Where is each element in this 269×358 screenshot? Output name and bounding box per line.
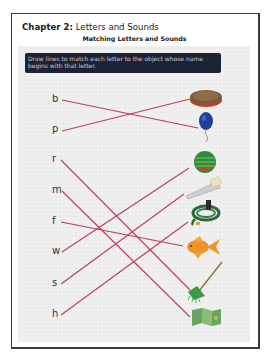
hose-icon [192,200,219,225]
balloon-icon [199,112,213,142]
pie-icon [190,90,222,107]
line-f-goldfish [61,222,183,246]
goldfish-icon [187,236,220,259]
rake-icon [188,262,222,303]
map-icon [192,308,221,326]
match-lines [61,99,198,317]
watermelon-icon [194,151,216,173]
saw-icon [186,177,222,199]
matching-canvas [0,0,269,358]
